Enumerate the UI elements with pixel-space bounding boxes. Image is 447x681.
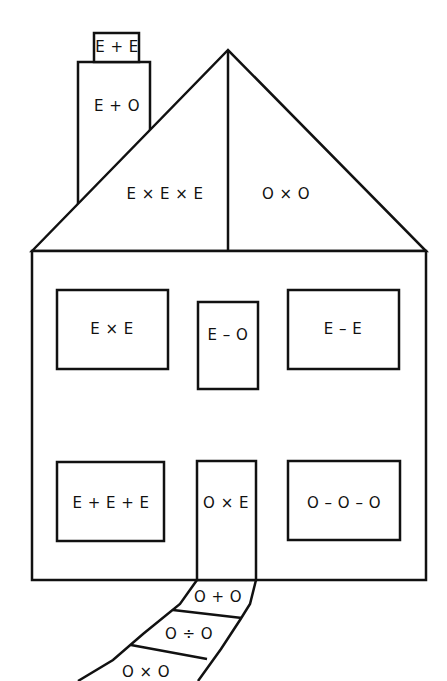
label-window-top-center: E – O <box>208 326 249 344</box>
label-path-step-2: O ÷ O <box>165 625 213 643</box>
label-chimney: E + O <box>94 97 140 115</box>
label-roof-left: E × E × E <box>126 185 203 203</box>
label-window-top-right: E – E <box>324 320 363 338</box>
label-window-top-left: E × E <box>90 320 134 338</box>
label-window-bottom-right: O – O – O <box>307 494 381 512</box>
label-door: O × E <box>203 494 249 512</box>
label-path-step-1: O + O <box>194 588 242 606</box>
label-chimney-cap: E + E <box>95 38 139 56</box>
path-divider-1 <box>173 610 242 618</box>
window-top-center <box>198 302 258 389</box>
label-window-bottom-left: E + E + E <box>72 494 149 512</box>
label-roof-right: O × O <box>262 185 310 203</box>
label-path-step-3: O × O <box>122 663 170 681</box>
door <box>197 461 256 580</box>
path-divider-2 <box>131 645 207 659</box>
